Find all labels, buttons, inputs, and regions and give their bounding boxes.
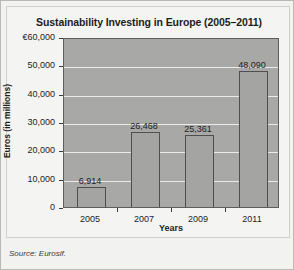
chart-figure: Sustainability Investing in Europe (2005… xyxy=(0,0,294,270)
x-axis-tick-mark xyxy=(225,208,226,212)
chart-panel: Sustainability Investing in Europe (2005… xyxy=(6,6,290,238)
x-axis-tick-mark xyxy=(171,208,172,212)
y-axis-tick-mark xyxy=(59,123,63,124)
bar xyxy=(239,71,268,207)
chart-title: Sustainability Investing in Europe (2005… xyxy=(7,16,291,28)
y-axis-tick-label: 20,000 xyxy=(7,145,55,155)
y-axis-tick-mark xyxy=(59,66,63,67)
y-axis-tick-mark xyxy=(59,208,63,209)
y-axis-tick-label: 30,000 xyxy=(7,117,55,127)
bar xyxy=(131,132,160,207)
source-note: Source: Eurosif. xyxy=(9,249,66,258)
x-axis-tick-mark xyxy=(117,208,118,212)
bar-value-label: 25,361 xyxy=(168,124,228,134)
y-axis-tick-label: €60,000 xyxy=(7,32,55,42)
y-axis-tick-label: 40,000 xyxy=(7,89,55,99)
y-axis-tick-mark xyxy=(59,95,63,96)
bar-value-label: 26,468 xyxy=(114,121,174,131)
bar-value-label: 48,090 xyxy=(222,60,282,70)
bar xyxy=(185,135,214,207)
y-axis-tick-mark xyxy=(59,38,63,39)
y-axis-tick-mark xyxy=(59,151,63,152)
bar-value-label: 6,914 xyxy=(60,176,120,186)
y-axis-tick-label: 50,000 xyxy=(7,60,55,70)
x-axis-title: Years xyxy=(63,223,279,233)
y-axis-tick-label: 10,000 xyxy=(7,174,55,184)
y-axis-tick-label: 0 xyxy=(7,202,55,212)
bar xyxy=(77,187,106,207)
